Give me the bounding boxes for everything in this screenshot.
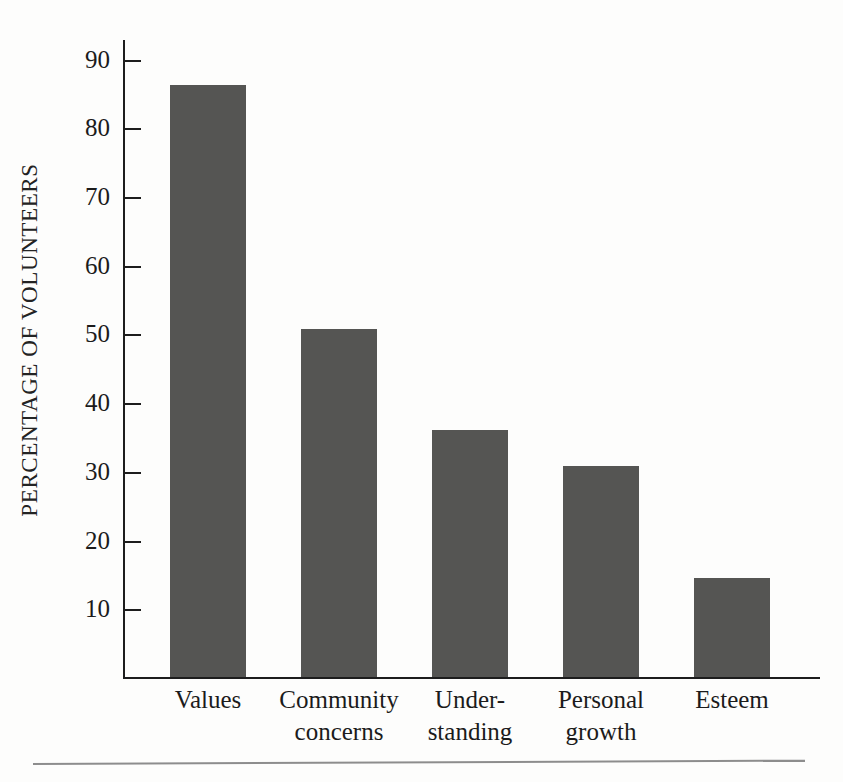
- x-axis-category-label: Communityconcerns: [264, 684, 414, 748]
- x-axis-category-label-line: Esteem: [657, 684, 807, 716]
- y-axis-tick: 70: [125, 197, 141, 199]
- y-axis-line: [123, 40, 125, 679]
- y-axis-tick-label: 30: [85, 459, 110, 485]
- bar-chart-figure: PERCENTAGE OF VOLUNTEERS 908070605040302…: [0, 0, 843, 782]
- y-axis-tick: 60: [125, 266, 141, 268]
- y-axis-tick-label: 50: [85, 321, 110, 347]
- x-axis-category-label-line: growth: [526, 716, 676, 748]
- x-axis-category-label-line: concerns: [264, 716, 414, 748]
- x-axis-labels: ValuesCommunityconcernsUnder-standingPer…: [123, 684, 820, 764]
- y-axis-tick-label: 10: [85, 596, 110, 622]
- y-axis-tick-label: 70: [85, 184, 110, 210]
- y-axis-tick: 40: [125, 403, 141, 405]
- bar: [432, 430, 508, 679]
- y-axis-tick: 90: [125, 60, 141, 62]
- x-axis-category-label-line: Values: [133, 684, 283, 716]
- bar: [170, 85, 246, 679]
- y-axis-tick: 50: [125, 334, 141, 336]
- bar: [301, 329, 377, 679]
- x-axis-line: [123, 677, 820, 679]
- x-axis-category-label: Under-standing: [395, 684, 545, 748]
- x-axis-category-label-line: Under-: [395, 684, 545, 716]
- x-axis-category-label-line: Community: [264, 684, 414, 716]
- bar: [694, 578, 770, 679]
- x-axis-category-label-line: Personal: [526, 684, 676, 716]
- y-axis-title: PERCENTAGE OF VOLUNTEERS: [0, 0, 60, 680]
- y-axis-tick: 30: [125, 472, 141, 474]
- y-axis-tick-label: 90: [85, 47, 110, 73]
- y-axis-tick-label: 80: [85, 115, 110, 141]
- x-axis-category-label: Esteem: [657, 684, 807, 716]
- y-axis-tick-label: 40: [85, 390, 110, 416]
- y-axis-title-text: PERCENTAGE OF VOLUNTEERS: [17, 163, 43, 516]
- y-axis-tick: 20: [125, 541, 141, 543]
- bar: [563, 466, 639, 679]
- plot-area: 908070605040302010: [123, 40, 818, 679]
- y-axis-tick: 80: [125, 128, 141, 130]
- x-axis-category-label-line: standing: [395, 716, 545, 748]
- y-axis-tick-label: 20: [85, 528, 110, 554]
- y-axis-tick: 10: [125, 609, 141, 611]
- x-axis-category-label: Values: [133, 684, 283, 716]
- x-axis-category-label: Personalgrowth: [526, 684, 676, 748]
- y-axis-tick-label: 60: [85, 253, 110, 279]
